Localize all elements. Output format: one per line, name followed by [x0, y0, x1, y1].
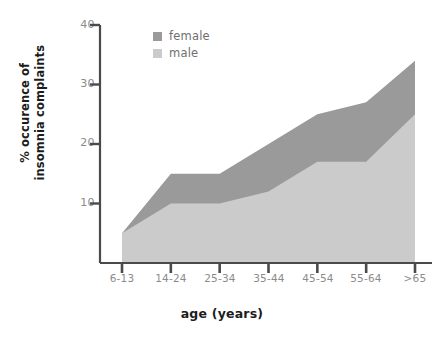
x-axis-ticks — [122, 263, 415, 273]
insomnia-area-chart: % occurence of insomnia complaints 40 30… — [0, 0, 444, 338]
plot-area — [0, 0, 444, 338]
series-areas — [122, 61, 415, 263]
y-axis-ticks — [90, 25, 100, 204]
